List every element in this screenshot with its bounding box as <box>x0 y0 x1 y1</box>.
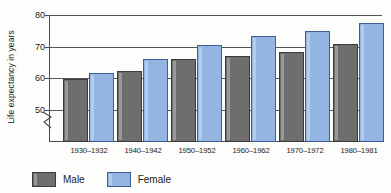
x-tick-label-1950-1952: 1950–1952 <box>169 146 225 155</box>
chart-legend: Male Female <box>32 170 193 188</box>
female-swatch-icon <box>107 172 131 187</box>
bar-highlight <box>361 25 364 140</box>
x-tick-label-1970-1972: 1970–1972 <box>277 146 333 155</box>
bar-highlight <box>227 58 230 140</box>
bar-groups <box>49 15 382 142</box>
chart-figure: Life expectancy in years 80 70 60 50 <box>0 0 391 193</box>
bar-highlight <box>173 61 176 140</box>
bar-male-1930-1932[interactable] <box>63 79 88 142</box>
bar-male-1960-1962[interactable] <box>225 56 250 142</box>
bar-female-1960-1962[interactable] <box>251 36 276 142</box>
bar-group-1980-1981 <box>333 15 385 142</box>
y-axis-title: Life expectancy in years <box>6 12 16 142</box>
legend-item-female[interactable]: Female <box>107 172 171 187</box>
bar-female-1980-1981[interactable] <box>359 23 384 142</box>
legend-item-male[interactable]: Male <box>32 172 85 187</box>
bar-highlight <box>253 38 256 140</box>
bar-male-1940-1942[interactable] <box>117 71 142 142</box>
y-tick-label-70: 70 <box>23 43 45 52</box>
bar-highlight <box>145 61 148 140</box>
x-tick-label-1960-1962: 1960–1962 <box>223 146 279 155</box>
bar-highlight <box>65 81 68 140</box>
bar-female-1930-1932[interactable] <box>89 73 114 142</box>
legend-label-female: Female <box>138 174 171 185</box>
bar-group-1930-1932 <box>63 15 115 142</box>
x-tick-label-1930-1932: 1930–1932 <box>61 146 117 155</box>
bar-male-1970-1972[interactable] <box>279 52 304 142</box>
bar-highlight <box>199 47 202 140</box>
bar-highlight <box>281 54 284 140</box>
swatch-highlight <box>34 174 37 185</box>
bar-highlight <box>91 75 94 140</box>
bar-highlight <box>307 33 310 141</box>
bar-male-1980-1981[interactable] <box>333 44 358 143</box>
bar-group-1970-1972 <box>279 15 331 142</box>
bar-highlight <box>335 46 338 141</box>
male-swatch-icon <box>32 172 56 187</box>
bar-female-1940-1942[interactable] <box>143 59 168 142</box>
bar-group-1960-1962 <box>225 15 277 142</box>
x-tick-label-1980-1981: 1980–1981 <box>331 146 387 155</box>
bar-group-1950-1952 <box>171 15 223 142</box>
legend-label-male: Male <box>63 174 85 185</box>
y-tick-label-80: 80 <box>23 11 45 20</box>
bar-group-1940-1942 <box>117 15 169 142</box>
bar-highlight <box>119 73 122 140</box>
swatch-highlight <box>109 174 112 185</box>
y-tick-label-60: 60 <box>23 74 45 83</box>
x-tick-label-1940-1942: 1940–1942 <box>115 146 171 155</box>
bar-female-1950-1952[interactable] <box>197 45 222 142</box>
bar-female-1970-1972[interactable] <box>305 31 330 143</box>
bar-male-1950-1952[interactable] <box>171 59 196 142</box>
x-axis-tick-labels: 1930–1932 1940–1942 1950–1952 1960–1962 … <box>49 146 382 158</box>
